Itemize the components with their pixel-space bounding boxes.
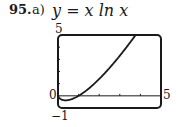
y-max-label: 5	[55, 22, 63, 36]
curve-x-ln-x	[58, 35, 135, 100]
x-min-label: 0	[49, 88, 57, 102]
x-max-label: 5	[163, 88, 171, 102]
y-min-label: −1	[51, 109, 69, 123]
chart: 5 −1 0 5	[0, 0, 178, 127]
plot-frame	[58, 35, 161, 108]
